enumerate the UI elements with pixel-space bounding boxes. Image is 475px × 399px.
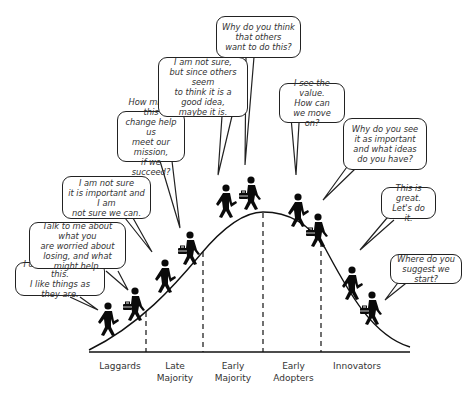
segment-label-early-majority: Early Majority	[208, 360, 258, 384]
bubble-text: Why do you think that others want to do …	[222, 22, 295, 52]
speech-bubble-innovator-1: This is great. Let's do it.	[381, 187, 436, 219]
speech-bubble-late-majority-2: How might this change help us meet our m…	[117, 111, 185, 162]
bubble-text: I see the value. How can we move on?	[285, 78, 339, 128]
speech-bubble-laggard-2: Talk to me about what you are worried ab…	[29, 222, 126, 269]
bubble-text: This is great. Let's do it.	[387, 183, 430, 223]
speech-bubble-early-adopter-1: I see the value. How can we move on?	[279, 83, 345, 123]
bubble-text: I am not sure, but since others seem to …	[164, 57, 242, 117]
person-walking-icon	[98, 302, 119, 336]
segment-label-early-adopters: Early Adopters	[266, 360, 321, 384]
segment-label-late-majority: Late Majority	[150, 360, 200, 384]
bubble-text: Why do you see it as important and what …	[352, 124, 418, 164]
bubble-text: Where do you suggest we start?	[396, 254, 456, 284]
person-briefcase-icon	[306, 213, 328, 247]
speech-bubble-early-majority-2: Why do you think that others want to do …	[216, 16, 301, 58]
person-walking-icon	[155, 259, 176, 293]
segment-label-laggards: Laggards	[95, 360, 145, 372]
bubble-text: Talk to me about what you are worried ab…	[35, 221, 120, 271]
speech-bubble-early-majority-1: I am not sure, but since others seem to …	[158, 57, 248, 117]
speech-bubble-innovator-2: Where do you suggest we start?	[390, 254, 462, 284]
person-briefcase-icon	[239, 176, 261, 210]
person-running-icon	[216, 184, 237, 218]
speech-bubble-early-adopter-2: Why do you see it as important and what …	[343, 118, 427, 170]
segment-label-innovators: Innovators	[327, 360, 387, 372]
bubble-text: I am not sure it is important and I am n…	[68, 178, 145, 218]
speech-bubble-late-majority-1: I am not sure it is important and I am n…	[62, 176, 151, 219]
